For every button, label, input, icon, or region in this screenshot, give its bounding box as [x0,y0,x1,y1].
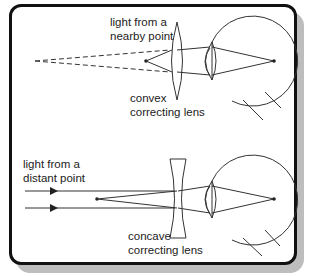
retina-focus-point-icon [272,59,276,63]
arrow-icon [50,204,58,212]
bottom-source-label-line1: light from a [23,157,85,171]
bottom-source-label-line2: distant point [23,171,85,185]
virtual-rays-dashed [35,50,170,72]
retina-focus-point-icon [272,197,276,201]
bottom-source-label: light from a distant point [23,157,85,185]
eye-icon [205,16,298,120]
top-lens-label: convex correcting lens [130,91,205,119]
eye-icon [205,155,298,256]
top-source-label-line1: light from a [110,15,173,29]
bottom-lens-label-line1: concave [128,229,203,243]
concave-lens-icon [170,159,186,238]
bottom-lens-label: concave correcting lens [128,229,203,257]
top-source-label: light from a nearby point [110,15,173,43]
top-lens-label-line2: correcting lens [130,105,205,119]
arrow-icon [50,187,58,195]
top-lens-label-line1: convex [130,91,205,105]
top-source-label-line2: nearby point [110,29,173,43]
bottom-lens-label-line2: correcting lens [128,243,203,257]
